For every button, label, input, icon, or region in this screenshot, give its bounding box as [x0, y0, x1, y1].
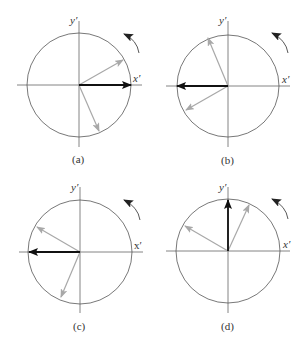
gray-vector	[79, 60, 123, 85]
gray-vector	[37, 227, 80, 252]
panel-d: x′ y′ (d)	[166, 181, 291, 333]
rotation-arrow-icon	[272, 33, 288, 53]
gray-vector	[61, 252, 80, 297]
y-axis-label: y′	[70, 181, 79, 193]
x-axis-label: x′	[132, 72, 141, 84]
panel-label: (b)	[221, 154, 234, 167]
panel-c: x′ y′ (c)	[19, 181, 143, 333]
rotation-arrow-icon	[124, 200, 140, 220]
panel-label: (a)	[72, 153, 85, 166]
gray-vector	[79, 85, 99, 131]
x-axis-label: x′	[281, 73, 290, 85]
gray-vector	[186, 86, 228, 110]
rotation-arrow-icon	[272, 199, 288, 219]
panel-a: x′ y′ (a)	[17, 14, 142, 166]
panel-label: (c)	[73, 320, 86, 333]
panel-b: x′ y′ (b)	[166, 14, 290, 167]
x-axis-label: x′	[134, 239, 142, 251]
rotation-arrow-icon	[124, 34, 139, 53]
y-axis-label: y′	[218, 181, 227, 193]
y-axis-label: y′	[218, 14, 227, 26]
rotating-frame-figure: x′ y′ (a) x′ y′ (b) x′ y′ (c)	[0, 0, 307, 347]
y-axis-label: y′	[69, 14, 78, 26]
gray-vector	[228, 205, 249, 251]
gray-vector	[185, 226, 228, 251]
x-axis-label: x′	[282, 238, 291, 250]
gray-vector	[208, 38, 228, 86]
panel-label: (d)	[221, 320, 234, 333]
